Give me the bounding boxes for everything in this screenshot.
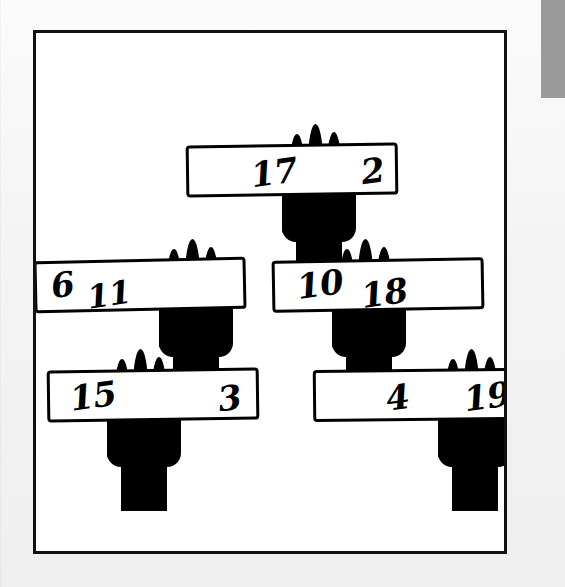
number-sign[interactable]: 6 11 — [33, 257, 246, 313]
sign-left-number: 10 — [295, 264, 346, 304]
sign-left-number: 17 — [249, 152, 300, 192]
illustration-scene: 17 2 6 11 — [0, 0, 565, 587]
sign-right-number: 2 — [359, 152, 387, 189]
number-sign[interactable]: 17 2 — [186, 143, 399, 198]
number-sign[interactable]: 10 18 — [272, 257, 485, 313]
sign-right-number: 11 — [85, 276, 133, 314]
artwork-area: 17 2 6 11 — [36, 33, 504, 551]
sign-left-number: 6 — [49, 266, 77, 303]
sign-left-number: 15 — [68, 376, 119, 416]
sign-right-number: 19 — [462, 376, 507, 416]
wrist-icon — [452, 453, 498, 511]
sign-right-number: 3 — [216, 380, 244, 417]
hand-sign-unit-bottom-right: 4 19 — [313, 343, 507, 513]
picture-frame: 17 2 6 11 — [33, 30, 507, 554]
sign-right-number: 18 — [359, 273, 410, 313]
hand-sign-unit-bottom-left: 15 3 — [47, 343, 259, 513]
number-sign[interactable]: 4 19 — [313, 368, 507, 422]
number-sign[interactable]: 15 3 — [47, 368, 260, 423]
sign-left-number: 4 — [384, 379, 411, 416]
corner-gray-block — [541, 0, 565, 98]
wrist-icon — [121, 453, 167, 511]
